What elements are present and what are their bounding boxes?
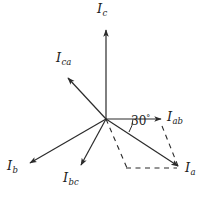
phasor-subscript-Iab: ab [172, 116, 183, 126]
phasor-label-Ibc: Ibc [63, 171, 78, 184]
angle-label-30deg: 30° [131, 114, 150, 127]
phasor-subscript-Ia: a [190, 167, 195, 177]
phasor-vectors [30, 30, 178, 166]
phasor-subscript-Ica: ca [61, 57, 71, 67]
phasor-subscript-Ibc: bc [68, 177, 78, 187]
phasor-subscript-Ib: b [12, 165, 17, 175]
construction-line-Iab-to-Ia [162, 126, 178, 166]
phasor-line-Ica [68, 78, 106, 119]
angle-value: 30 [131, 114, 146, 128]
degree-symbol: ° [146, 113, 150, 122]
phasor-label-Ica: Ica [56, 51, 71, 64]
phasor-label-Ic: Ic [97, 2, 107, 15]
phasor-label-Iab: Iab [167, 110, 183, 123]
phasor-subscript-Ic: c [102, 8, 107, 18]
phasor-diagram-figure: Ic Ica Iab Ia Ib Ibc 30° [0, 0, 211, 201]
phasor-label-Ib: Ib [7, 159, 18, 172]
phasor-label-Ia: Ia [185, 161, 195, 174]
phasor-diagram-canvas [0, 0, 211, 201]
